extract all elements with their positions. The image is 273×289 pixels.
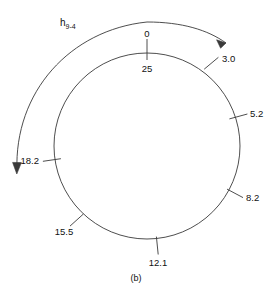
- tick-label-8-2: 8.2: [246, 192, 259, 203]
- circular-cycle-diagram: 0 25 3.0 5.2 8.2 12.1 15.5 18.2 h9-4 (b): [0, 0, 273, 289]
- tick-label-0: 0: [144, 28, 149, 39]
- tick-mark-5-2: [229, 114, 247, 119]
- sweep-arc-label: h9-4: [60, 17, 76, 30]
- tick-mark-12-1: [156, 237, 158, 255]
- cycle-circle: [54, 53, 240, 239]
- tick-label-18-2: 18.2: [21, 155, 40, 166]
- figure-caption: (b): [131, 273, 142, 283]
- tick-mark-18-2: [43, 159, 61, 162]
- tick-mark-8-2: [227, 189, 243, 198]
- sweep-arc-arrowhead-end: [217, 40, 226, 48]
- tick-mark-3-0: [204, 57, 218, 69]
- sweep-arc-label-subscript: 9-4: [66, 23, 76, 30]
- tick-label-5-2: 5.2: [250, 108, 263, 119]
- tick-label-15-5: 15.5: [55, 226, 74, 237]
- tick-label-3-0: 3.0: [222, 53, 235, 64]
- sweep-arc: [17, 22, 226, 171]
- tick-mark-15-5: [70, 214, 83, 226]
- tick-label-12-1: 12.1: [149, 257, 168, 268]
- tick-label-25: 25: [142, 63, 153, 74]
